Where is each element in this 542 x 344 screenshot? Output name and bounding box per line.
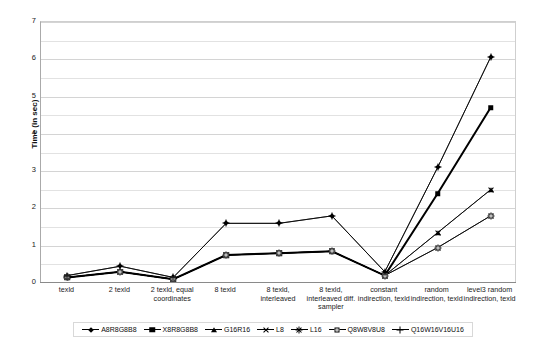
plus-marker-icon	[434, 164, 441, 171]
legend-marker-sample	[205, 325, 222, 334]
legend-item-a8r8g8b8[interactable]: A8R8G8B8	[82, 325, 136, 334]
x-marker-icon	[434, 229, 441, 236]
plot-area	[40, 21, 516, 282]
series-line	[67, 190, 490, 279]
series-line	[67, 190, 490, 279]
plus-marker-icon	[276, 220, 283, 227]
x-axis-categories: texld2 texld2 texld, equal coordinates8 …	[40, 286, 516, 320]
legend-label: L8	[276, 326, 284, 333]
x-tick-label: constant indirection, texld	[357, 286, 410, 303]
y-tick-label: 1	[14, 241, 36, 249]
legend-item-x8r8g8b8[interactable]: X8R8G8B8	[144, 325, 198, 334]
x-marker-icon	[487, 186, 494, 193]
openbox-marker-icon	[435, 245, 440, 250]
legend-item-q16w16v16u16[interactable]: Q16W16V16U16	[392, 325, 464, 334]
y-tick-label: 5	[14, 92, 36, 100]
y-tick-label: 6	[14, 54, 36, 62]
plus-marker-icon	[328, 212, 335, 219]
series-line	[67, 57, 490, 277]
x-tick-label: 8 texld, interleaved diff. sampler	[304, 286, 357, 312]
plus-marker-icon	[64, 272, 71, 279]
legend-marker-sample	[291, 325, 308, 334]
legend-marker-sample	[144, 325, 161, 334]
x-tick-label: 8 texld	[199, 286, 252, 295]
triangle-marker-icon	[211, 327, 217, 332]
series-line	[67, 57, 490, 277]
legend-label: A8R8G8B8	[101, 326, 136, 333]
legend-marker-sample	[82, 325, 99, 334]
square-marker-icon	[149, 327, 155, 333]
plus-marker-icon	[117, 263, 124, 270]
legend-marker-sample	[392, 325, 409, 334]
plus-marker-icon	[381, 268, 388, 275]
line-chart: Time (in sec) 01234567 texld2 texld2 tex…	[0, 0, 542, 344]
legend-label: X8R8G8B8	[163, 326, 198, 333]
square-marker-icon	[435, 191, 441, 197]
x-tick-label: 8 texld, interleaved	[252, 286, 305, 303]
chart-legend: A8R8G8B8X8R8G8B8G16R16L8L16Q8W8V8U8Q16W1…	[73, 322, 473, 337]
x-marker-icon	[262, 326, 269, 333]
legend-item-g16r16[interactable]: G16R16	[205, 325, 250, 334]
x-tick-label: random indirection, texld	[410, 286, 463, 303]
openbox-marker-icon	[224, 253, 229, 258]
y-tick-label: 3	[14, 166, 36, 174]
x-tick-label: 2 texld	[93, 286, 146, 295]
x-tick-label: level3 random indirection, texld	[463, 286, 516, 303]
diamond-marker-icon	[88, 327, 94, 333]
legend-item-q8w8v8u8[interactable]: Q8W8V8U8	[329, 325, 385, 334]
legend-marker-sample	[257, 325, 274, 334]
series-lines	[41, 22, 517, 283]
y-tick-label: 4	[14, 129, 36, 137]
x-tick-label: texld	[40, 286, 93, 295]
openbox-marker-icon	[329, 249, 334, 254]
openbox-marker-icon	[335, 327, 340, 332]
legend-label: G16R16	[224, 326, 250, 333]
openbox-marker-icon	[277, 251, 282, 256]
legend-marker-sample	[329, 325, 346, 334]
plus-marker-icon	[223, 220, 230, 227]
y-tick-label: 0	[14, 278, 36, 286]
legend-label: L16	[310, 326, 322, 333]
plus-marker-icon	[487, 54, 494, 61]
star-marker-icon	[296, 326, 303, 333]
y-tick-label: 2	[14, 203, 36, 211]
y-tick-label: 7	[14, 17, 36, 25]
plus-marker-icon	[170, 274, 177, 281]
x-axis-line	[40, 282, 516, 283]
openbox-marker-icon	[488, 213, 493, 218]
square-marker-icon	[488, 105, 494, 111]
openbox-marker-icon	[118, 269, 123, 274]
legend-label: Q8W8V8U8	[348, 326, 385, 333]
x-tick-label: 2 texld, equal coordinates	[146, 286, 199, 303]
legend-item-l8[interactable]: L8	[257, 325, 284, 334]
legend-label: Q16W16V16U16	[411, 326, 464, 333]
plus-marker-icon	[397, 326, 404, 333]
legend-item-l16[interactable]: L16	[291, 325, 322, 334]
